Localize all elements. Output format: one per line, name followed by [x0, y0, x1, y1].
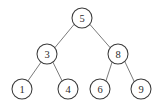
tree-canvas: 5 3 8 1 4 6	[0, 0, 163, 111]
node-group: 5 3 8 1 4 6	[12, 8, 151, 99]
binary-tree-diagram: 5 3 8 1 4 6	[0, 0, 163, 111]
tree-node-root: 5	[72, 8, 92, 28]
node-label-5: 5	[79, 13, 84, 24]
edge-8-to-9	[125, 62, 134, 82]
edge-5-to-8	[90, 24, 110, 47]
tree-node-left: 3	[37, 44, 57, 64]
node-label-1: 1	[19, 84, 24, 95]
node-label-4: 4	[65, 84, 71, 95]
tree-node-leaf-1: 1	[12, 79, 32, 99]
edge-8-to-6	[106, 62, 112, 80]
node-label-3: 3	[44, 49, 49, 60]
edge-5-to-3	[55, 24, 74, 47]
tree-node-leaf-9: 9	[131, 79, 151, 99]
node-label-8: 8	[115, 49, 120, 60]
edge-3-to-4	[53, 62, 62, 81]
tree-node-leaf-4: 4	[58, 79, 78, 99]
edge-3-to-1	[28, 62, 41, 81]
tree-node-leaf-6: 6	[90, 79, 110, 99]
node-label-9: 9	[138, 84, 143, 95]
node-label-6: 6	[97, 84, 102, 95]
tree-node-right: 8	[108, 44, 128, 64]
